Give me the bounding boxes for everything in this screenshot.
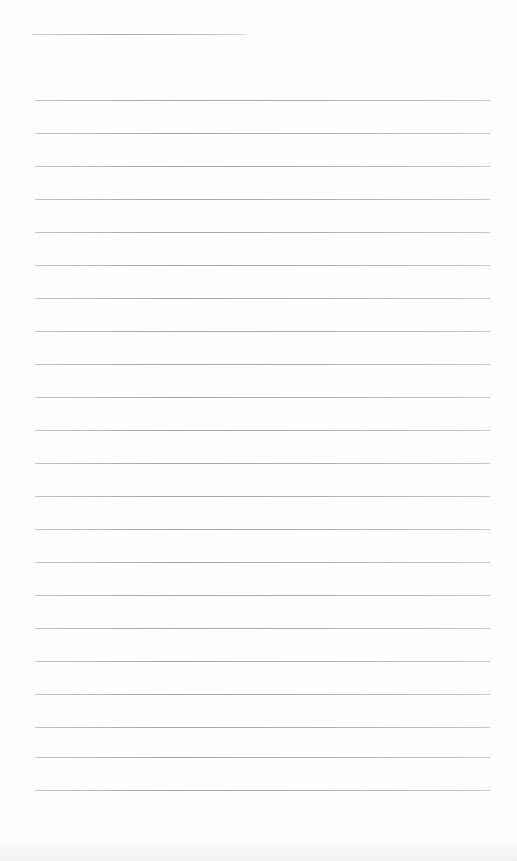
ruled-line bbox=[35, 166, 490, 167]
ruled-line bbox=[35, 298, 490, 299]
ruled-line bbox=[35, 199, 490, 200]
ruled-line bbox=[35, 496, 490, 497]
ruled-line bbox=[35, 661, 490, 662]
ruled-line bbox=[35, 397, 490, 398]
bottom-bleed-through bbox=[0, 839, 517, 861]
ruled-line bbox=[35, 628, 490, 629]
ruled-line bbox=[35, 727, 490, 728]
ruled-line bbox=[35, 757, 490, 758]
ruled-line bbox=[35, 694, 490, 695]
ruled-line bbox=[35, 595, 490, 596]
ruled-line bbox=[35, 133, 490, 134]
ruled-line bbox=[35, 463, 490, 464]
lined-page bbox=[0, 0, 517, 861]
ruled-line bbox=[35, 529, 490, 530]
ruled-line bbox=[35, 265, 490, 266]
ruled-line bbox=[35, 232, 490, 233]
ruled-line bbox=[35, 331, 490, 332]
ruled-line bbox=[35, 100, 490, 101]
title-line bbox=[32, 34, 246, 35]
ruled-line bbox=[35, 430, 490, 431]
ruled-line bbox=[35, 790, 490, 791]
top-text-fragment bbox=[0, 0, 517, 5]
ruled-line bbox=[35, 364, 490, 365]
ruled-line bbox=[35, 562, 490, 563]
